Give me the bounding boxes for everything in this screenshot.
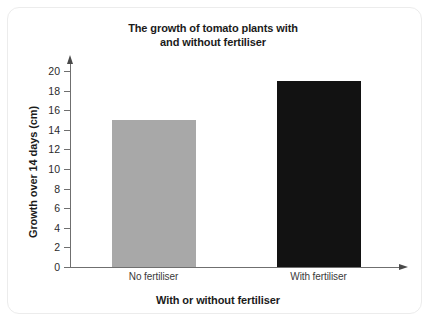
chart-card: The growth of tomato plants with and wit… [7,7,422,314]
x-axis-line [70,267,401,268]
y-axis-tick [64,91,70,92]
y-axis-tick [64,208,70,209]
y-axis-tick-label: 16 [16,104,60,116]
y-axis-tick-label: 4 [16,222,60,234]
y-axis-tick-label: 20 [16,65,60,77]
x-axis-label: With or without fertiliser [38,294,398,306]
chart-title-line1: The growth of tomato plants with [128,22,298,34]
bar [277,81,361,267]
x-axis-category-label: With fertiliser [259,271,379,282]
y-axis-tick-label: 10 [16,163,60,175]
y-axis-tick [64,149,70,150]
y-axis-tick [64,130,70,131]
y-axis-tick-label: 8 [16,183,60,195]
y-axis-tick-label: 12 [16,143,60,155]
y-axis-tick-label: 6 [16,202,60,214]
chart-title: The growth of tomato plants with and wit… [48,21,378,49]
y-axis-tick [64,228,70,229]
y-axis-arrow-icon [67,55,73,64]
bar-chart: The growth of tomato plants with and wit… [8,8,423,315]
y-axis-tick [64,110,70,111]
y-axis-tick [64,267,70,268]
y-axis-tick-label: 2 [16,241,60,253]
y-axis-tick [64,247,70,248]
y-axis-tick [64,71,70,72]
y-axis-tick [64,169,70,170]
bars-group [71,71,401,267]
y-axis-tick-label: 14 [16,124,60,136]
y-axis-tick-label: 18 [16,85,60,97]
chart-title-line2: and without fertiliser [48,35,378,49]
y-axis-tick [64,189,70,190]
y-axis-tick-label: 0 [16,261,60,273]
x-axis-category-label: No fertiliser [94,271,214,282]
bar [112,120,196,267]
